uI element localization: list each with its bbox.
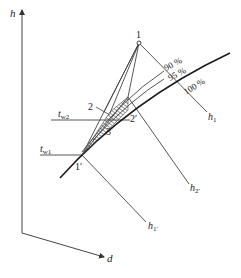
tw1-label: tw1	[40, 143, 52, 156]
axes	[22, 10, 104, 257]
d-axis	[22, 233, 104, 257]
point-1p-label: 1′	[75, 161, 82, 172]
line-1-to-2	[104, 43, 139, 112]
point-3-label: 3	[106, 126, 111, 137]
line-1-to-2p	[128, 43, 139, 97]
process-lines	[82, 43, 139, 155]
h2p-line	[128, 97, 189, 184]
h1p-label: h1′	[148, 220, 159, 233]
labels: h d 1 2 2′ 3 1′ h1 h2′ h1′ tw2 tw1 90 % …	[10, 7, 217, 264]
point-1-label: 1	[136, 29, 141, 40]
h-axis-label: h	[10, 7, 16, 19]
h1p-line	[82, 155, 146, 222]
tw2-label: tw2	[58, 108, 70, 121]
h1-label: h1	[208, 111, 217, 124]
h2p-label: h2′	[190, 182, 201, 195]
d-axis-label: d	[107, 252, 113, 264]
h-d-diagram: h d 1 2 2′ 3 1′ h1 h2′ h1′ tw2 tw1 90 % …	[0, 0, 241, 278]
point-2-label: 2	[88, 101, 93, 112]
point-2p-label: 2′	[130, 113, 137, 124]
rh-100-label: 100 %	[182, 76, 207, 97]
point-1-marker	[137, 41, 141, 45]
